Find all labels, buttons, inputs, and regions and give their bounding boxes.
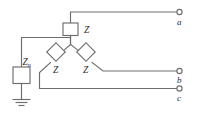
label-terminal-b: b: [177, 75, 182, 85]
terminal-a-marker[interactable]: [177, 9, 182, 14]
ground-icon: [13, 100, 31, 106]
impedance-z-phase-c: [47, 43, 65, 61]
terminal-c-marker[interactable]: [177, 86, 182, 91]
label-z-phase-a: Z: [84, 25, 90, 35]
impedance-z-phase-a: [63, 23, 78, 36]
terminal-b-marker[interactable]: [177, 68, 182, 73]
circuit-diagram: Z Z Z Zn a b c: [0, 0, 197, 116]
circuit-schematic-canvas: Z Z Z Zn a b c: [0, 0, 197, 116]
wire-node-to-zc: [63, 45, 71, 52]
impedance-z-neutral: [13, 67, 30, 84]
wire-phase-c: [40, 63, 178, 89]
label-terminal-c: c: [177, 93, 181, 103]
impedance-z-phase-b: [77, 43, 95, 61]
label-z-neutral: Zn: [23, 57, 31, 68]
label-z-phase-b: Z: [83, 65, 89, 75]
label-z-phase-c: Z: [53, 65, 59, 75]
wire-node-to-zb: [71, 45, 80, 52]
label-z-neutral-subscript: n: [28, 62, 31, 68]
wire-phase-a: [71, 12, 178, 23]
label-terminal-a: a: [177, 17, 182, 27]
wire-phase-b: [92, 63, 177, 72]
